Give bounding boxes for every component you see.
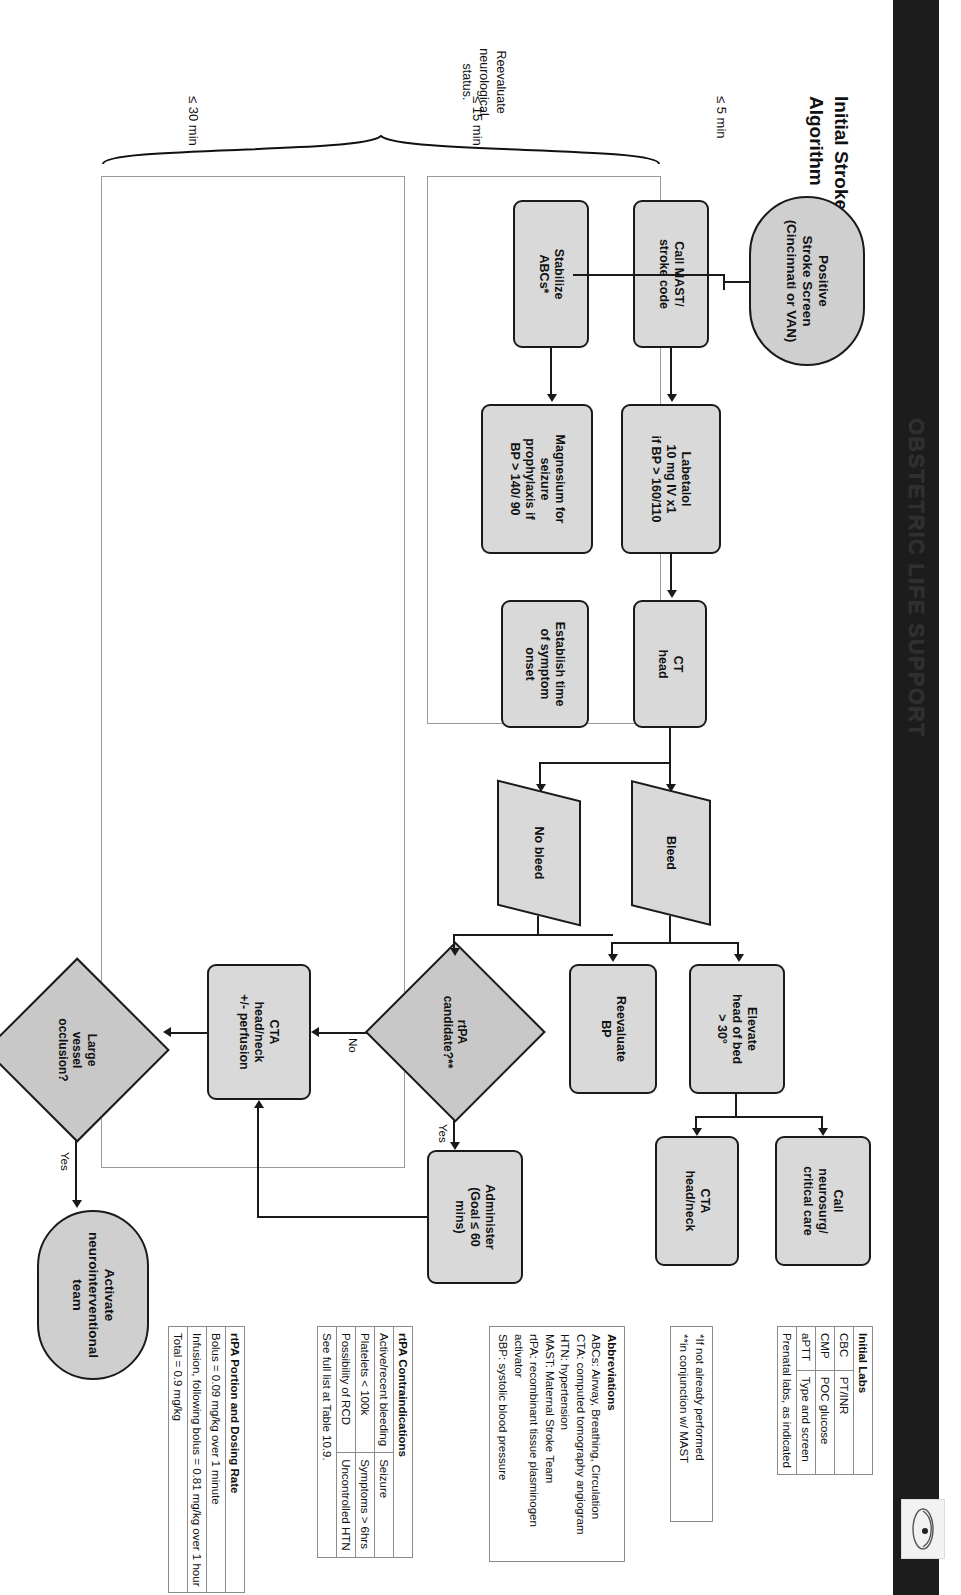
table-cell: Type and screen xyxy=(797,1370,816,1474)
initial-labs-table: Initial LabsCBCPT/INRCMPPOC glucoseaPTTT… xyxy=(777,1326,873,1475)
rotated-page-wrapper: OBSTETRIC LIFE SUPPORT Initial Stroke Ma… xyxy=(0,0,961,1595)
node-establish-time[interactable]: Establish timeof symptomonset xyxy=(501,600,589,728)
table-row: Total = 0.9 mg/kg xyxy=(169,1327,188,1593)
table-row: Possibility of RCDUncontrolled HTN xyxy=(337,1327,356,1558)
connector xyxy=(735,1094,737,1116)
connector xyxy=(453,1120,455,1144)
connector xyxy=(539,762,541,786)
node-elevate-head-of-bed[interactable]: Elevatehead of bed> 30° xyxy=(689,964,785,1094)
connector xyxy=(613,942,671,944)
table-cell: PT/INR xyxy=(835,1370,854,1474)
arrow-icon xyxy=(163,1027,171,1037)
table-cell: Active/recent bleeding xyxy=(375,1327,394,1453)
rtpa-dosing-header: rtPA Portion and Dosing Rate xyxy=(226,1327,245,1593)
node-rtpa-candidate-decision[interactable]: rtPAcandidate?** xyxy=(367,944,543,1120)
footnote-line-2: **in conjunction w/ MAST xyxy=(676,1334,692,1514)
arrow-icon xyxy=(254,1100,264,1108)
footnote-line-1: *If not already performed xyxy=(691,1334,707,1514)
connector xyxy=(537,916,539,934)
arrow-icon xyxy=(692,1128,702,1136)
connector xyxy=(550,348,552,394)
connector xyxy=(669,762,671,786)
footnotes-box: *If not already performed **in conjuncti… xyxy=(670,1326,713,1522)
abbreviation-item: rtPA: recombinant tissue plasminogen act… xyxy=(510,1334,541,1554)
abbreviation-item: SBP: systolic blood pressure xyxy=(495,1334,511,1554)
arrow-icon xyxy=(311,1027,319,1037)
table-row: Platelets < 100kSymptoms > 6hrs xyxy=(356,1327,375,1558)
table-cell: See full list at Table 10.9. xyxy=(318,1327,337,1558)
table-cell: CBC xyxy=(835,1327,854,1371)
phase-brace xyxy=(101,132,661,166)
abbreviations-header: Abbreviations xyxy=(603,1334,619,1554)
node-no-bleed[interactable]: No bleed xyxy=(497,790,581,916)
arrow-icon xyxy=(666,784,676,792)
edge-label-yes-lvo: Yes xyxy=(59,1150,71,1173)
node-large-vessel-occlusion-decision[interactable]: Largevesselocclusion? xyxy=(0,960,167,1140)
rtpa-dosing-table: rtPA Portion and Dosing RateBolus = 0.09… xyxy=(168,1326,245,1593)
connector xyxy=(75,1140,77,1200)
connector xyxy=(695,1116,823,1118)
table-row: See full list at Table 10.9. xyxy=(318,1327,337,1558)
timing-label-5min: ≤ 5 min xyxy=(714,96,729,139)
table-cell: Symptoms > 6hrs xyxy=(356,1453,375,1557)
rtpa-contraindications-table: rtPA ContraindicationsActive/recent blee… xyxy=(317,1326,413,1558)
node-activate-neurointerventional-team[interactable]: Activateneurointerventionalteam xyxy=(37,1210,149,1380)
connector xyxy=(259,1216,427,1218)
brand-title: OBSTETRIC LIFE SUPPORT xyxy=(903,418,929,738)
node-positive-stroke-screen[interactable]: PositiveStroke Screen(Cincinnati or VAN) xyxy=(749,196,865,366)
arrow-icon xyxy=(667,394,677,402)
table-row: rtPA Portion and Dosing Rate xyxy=(226,1327,245,1593)
abbreviations-box: Abbreviations ABCs: Airway, Breathing, C… xyxy=(489,1326,625,1562)
table-row: CBCPT/INR xyxy=(835,1327,854,1475)
table-row: aPTTType and screen xyxy=(797,1327,816,1475)
node-administer-rtpa[interactable]: Administer(Goal ≤ 60mins) xyxy=(427,1150,523,1284)
connector xyxy=(453,934,613,936)
table-cell: Bolus = 0.09 mg/kg over 1 minute xyxy=(207,1327,226,1593)
arrow-icon xyxy=(818,1128,828,1136)
connector xyxy=(670,348,672,394)
connector xyxy=(670,554,672,590)
table-row: Prenatal labs, as indicated xyxy=(778,1327,797,1475)
arrow-icon xyxy=(450,948,460,956)
table-cell: Seizure xyxy=(375,1453,394,1557)
obstetric-logo-icon xyxy=(901,1499,945,1559)
table-cell: POC glucose xyxy=(816,1370,835,1474)
table-cell: Total = 0.9 mg/kg xyxy=(169,1327,188,1593)
connector xyxy=(723,274,725,290)
node-call-neurosurg[interactable]: Callneurosurg/critical care xyxy=(775,1136,871,1266)
connector xyxy=(573,274,725,276)
edge-label-yes-rtpa: Yes xyxy=(437,1122,449,1145)
table-row: Bolus = 0.09 mg/kg over 1 minute xyxy=(207,1327,226,1593)
arrow-icon xyxy=(734,954,744,962)
header-band xyxy=(893,0,939,1595)
arrow-icon xyxy=(72,1200,82,1208)
table-row: Active/recent bleedingSeizure xyxy=(375,1327,394,1558)
connector xyxy=(669,728,671,762)
abbreviation-item: HTN: hypertension xyxy=(557,1334,573,1554)
algorithm-page: OBSTETRIC LIFE SUPPORT Initial Stroke Ma… xyxy=(0,0,961,1595)
arrow-icon xyxy=(608,954,618,962)
table-cell: Infusion, following bolus = 0.81 mg/kg o… xyxy=(188,1327,207,1593)
node-labetalol[interactable]: Labetalol10 mg IV x1if BP > 160/110 xyxy=(621,404,721,554)
connector xyxy=(541,762,671,764)
node-cta-perfusion[interactable]: CTAhead/neck+/- perfusion xyxy=(207,964,311,1100)
rtpa-contraindications-header: rtPA Contraindications xyxy=(394,1327,413,1558)
table-cell: Possibility of RCD xyxy=(337,1327,356,1453)
node-magnesium[interactable]: Magnesium forseizureprophylaxis ifBP > 1… xyxy=(481,404,593,554)
connector xyxy=(169,1032,207,1034)
connector xyxy=(669,916,671,942)
node-cta-head-neck[interactable]: CTAhead/neck xyxy=(655,1136,739,1266)
arrow-icon xyxy=(547,394,557,402)
table-cell: Prenatal labs, as indicated xyxy=(778,1327,797,1475)
node-ct-head[interactable]: CThead xyxy=(633,600,707,728)
node-bleed[interactable]: Bleed xyxy=(631,790,711,916)
node-reevaluate-bp[interactable]: ReevaluateBP xyxy=(569,964,657,1094)
arrow-icon xyxy=(450,1142,460,1150)
abbreviation-item: ABCs: Airway, Breathing, Circulation xyxy=(588,1334,604,1554)
arrow-icon xyxy=(536,784,546,792)
table-cell: Uncontrolled HTN xyxy=(337,1453,356,1557)
reevaluate-status-note: Reevaluateneurologicalstatus. xyxy=(458,36,509,128)
table-cell: Platelets < 100k xyxy=(356,1327,375,1453)
initial-labs-header: Initial Labs xyxy=(854,1327,873,1475)
connector xyxy=(319,1032,367,1034)
